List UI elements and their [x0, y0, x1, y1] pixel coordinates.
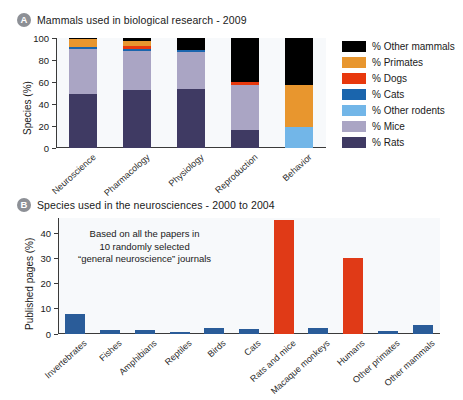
bar-segment — [69, 94, 97, 148]
bar — [65, 314, 85, 334]
bar-segment — [231, 38, 259, 82]
bar-segment — [123, 38, 151, 41]
x-axis-label: Reptiles — [162, 338, 193, 367]
stacked-bar — [285, 38, 313, 148]
x-axis-label: Macaque monkeys — [269, 338, 332, 396]
legend-item: % Rats — [342, 134, 455, 150]
y-tick-label: 0 — [44, 143, 52, 154]
y-tick-label: 40 — [38, 99, 52, 110]
panel-a-header: A Mammals used in biological research - … — [17, 13, 247, 27]
x-axis-label: Pharmacology — [102, 152, 151, 198]
legend-item: % Dogs — [342, 70, 455, 86]
legend-swatch — [342, 105, 366, 116]
panel-b-header: B Species used in the neurosciences - 20… — [17, 198, 275, 212]
legend-item: % Other mammals — [342, 38, 455, 54]
legend-label: % Other mammals — [372, 41, 455, 52]
y-tick-label: 0 — [46, 329, 54, 340]
x-axis-label: Cats — [242, 338, 262, 358]
bar — [239, 329, 259, 334]
bar-segment — [285, 127, 313, 148]
legend-item: % Other rodents — [342, 102, 455, 118]
x-axis-label: Neuroscience — [50, 152, 98, 196]
annotation-line: “general neuroscience” journals — [78, 253, 211, 266]
y-tick-label: 40 — [40, 228, 54, 239]
bar-segment — [231, 85, 259, 130]
stacked-bar — [123, 38, 151, 148]
bar-segment — [177, 38, 205, 50]
panel-a-title: Mammals used in biological research - 20… — [37, 14, 247, 26]
panel-b-y-axis-title: Published pages (%) — [24, 238, 35, 330]
legend-swatch — [342, 137, 366, 148]
legend-swatch — [342, 73, 366, 84]
bar — [170, 332, 190, 334]
y-tick-label: 20 — [40, 278, 54, 289]
bar — [413, 325, 433, 334]
bar-segment — [69, 49, 97, 94]
legend-label: % Mice — [372, 121, 405, 132]
bar-segment — [231, 82, 259, 85]
bar — [343, 258, 363, 334]
panel-a-y-axis-title: Species (%) — [22, 81, 33, 135]
bar-segment — [285, 38, 313, 85]
annotation-line: Based on all the papers in — [78, 228, 211, 241]
panel-b-annotation: Based on all the papers in10 randomly se… — [78, 228, 211, 266]
x-axis-label: Fishes — [97, 338, 123, 363]
bar-segment — [123, 90, 151, 148]
figure-root: A Mammals used in biological research - … — [0, 0, 463, 400]
legend-item: % Primates — [342, 54, 455, 70]
bar-segment — [69, 38, 97, 39]
legend-swatch — [342, 41, 366, 52]
y-tick-label: 80 — [38, 55, 52, 66]
legend-label: % Other rodents — [372, 105, 445, 116]
legend-item: % Mice — [342, 118, 455, 134]
bar-segment — [177, 52, 205, 88]
legend-swatch — [342, 57, 366, 68]
bar-segment — [123, 46, 151, 49]
x-axis-label: Behavior — [281, 152, 314, 183]
x-axis-label: Humans — [335, 338, 367, 368]
legend-label: % Dogs — [372, 73, 407, 84]
bar-segment — [285, 85, 313, 127]
bar-segment — [123, 41, 151, 45]
bar — [274, 220, 294, 334]
legend-label: % Rats — [372, 137, 404, 148]
annotation-line: 10 randomly selected — [78, 241, 211, 254]
bar — [378, 331, 398, 334]
stacked-bar — [177, 38, 205, 148]
bar-segment — [69, 39, 97, 47]
x-axis-label: Physiology — [167, 152, 206, 189]
legend-item: % Cats — [342, 86, 455, 102]
bar-segment — [177, 89, 205, 148]
x-axis-label: Reproduction — [213, 152, 259, 195]
legend-label: % Primates — [372, 57, 423, 68]
panel-a-badge: A — [17, 13, 31, 27]
bar — [135, 330, 155, 334]
bar-segment — [231, 130, 259, 148]
y-tick-label: 20 — [38, 121, 52, 132]
y-tick-label: 30 — [40, 253, 54, 264]
bar — [204, 328, 224, 334]
bar-segment — [123, 49, 151, 51]
legend-swatch — [342, 121, 366, 132]
panel-b-badge: B — [17, 198, 31, 212]
bar-segment — [177, 50, 205, 52]
y-tick-label: 100 — [33, 33, 52, 44]
bar-segment — [123, 51, 151, 90]
legend: % Other mammals% Primates% Dogs% Cats% O… — [342, 38, 455, 150]
stacked-bar — [69, 38, 97, 148]
legend-label: % Cats — [372, 89, 404, 100]
panel-b-title: Species used in the neurosciences - 2000… — [37, 199, 275, 211]
bar-segment — [69, 47, 97, 49]
y-tick-label: 10 — [40, 303, 54, 314]
bar — [308, 328, 328, 334]
y-tick-label: 60 — [38, 77, 52, 88]
x-axis-label: Invertebrates — [43, 338, 89, 381]
stacked-bar — [231, 38, 259, 148]
legend-swatch — [342, 89, 366, 100]
x-axis-label: Birds — [206, 338, 228, 359]
bar — [100, 330, 120, 334]
